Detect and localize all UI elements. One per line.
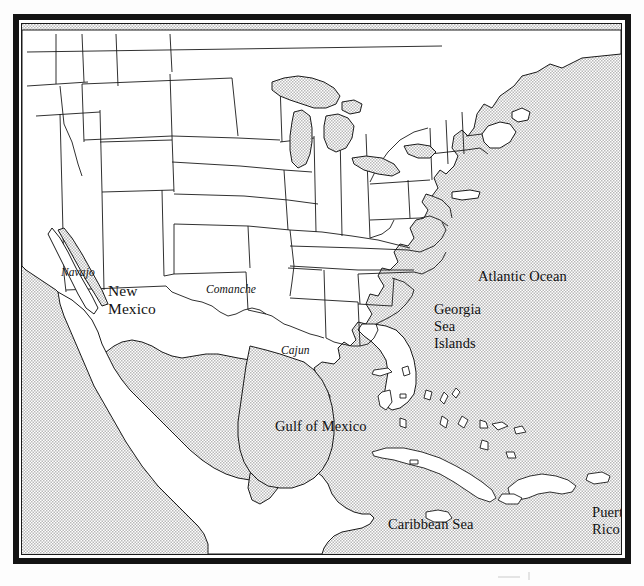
scanned-page: .land { fill:#ffffff; stroke:#1a1a1a; st… [0, 0, 644, 586]
puerto-rico-island [586, 472, 610, 484]
map-graphic[interactable]: .land { fill:#ffffff; stroke:#1a1a1a; st… [22, 24, 621, 554]
map-frame-inner: .land { fill:#ffffff; stroke:#1a1a1a; st… [21, 23, 622, 555]
map-viewport[interactable]: .land { fill:#ffffff; stroke:#1a1a1a; st… [22, 24, 621, 554]
georgian-bay-inlet [342, 100, 362, 114]
long-island [452, 190, 480, 200]
jamaica [426, 510, 452, 522]
scan-artifact-2 [528, 572, 530, 580]
scan-artifact-1 [498, 576, 520, 578]
